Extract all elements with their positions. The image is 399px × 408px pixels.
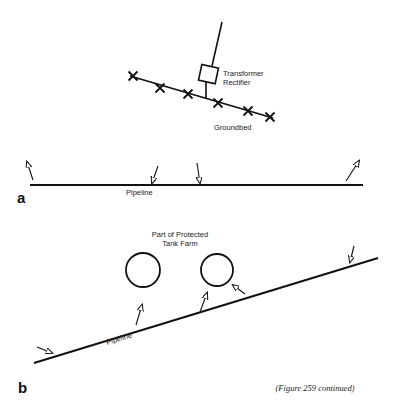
rectifier-cable	[212, 22, 222, 66]
current-arrows-b	[37, 246, 354, 353]
figure-caption: (Figure 259 continued)	[276, 383, 355, 393]
current-arrow-icon	[136, 305, 142, 325]
panel-a-label: a	[17, 189, 26, 206]
anode-x-icon	[129, 72, 138, 81]
groundbed-line	[130, 76, 273, 118]
tank-farm-label-2: Tank Farm	[162, 239, 197, 248]
current-arrows-a	[27, 161, 359, 183]
rectifier-label: Rectifier	[223, 78, 251, 87]
panel-b-label: b	[18, 379, 27, 396]
cathodic-protection-diagram: Transformer Rectifier Groundbed Pipeline…	[0, 0, 399, 408]
current-arrow-icon	[27, 162, 33, 180]
current-arrow-icon	[350, 246, 354, 262]
current-arrow-icon	[37, 347, 52, 353]
tanks	[126, 253, 233, 287]
current-arrow-icon	[197, 163, 200, 183]
pipeline-b	[34, 258, 378, 363]
tank-farm-label-1: Part of Protected	[152, 230, 208, 239]
pipeline-a-label: Pipeline	[126, 188, 153, 197]
current-arrow-icon	[346, 161, 359, 181]
panel-b: Part of Protected Tank Farm Pipeline b	[18, 230, 378, 396]
current-arrow-icon	[233, 285, 245, 294]
tank-circle	[201, 254, 233, 286]
groundbed-label: Groundbed	[214, 123, 252, 132]
transformer-label: Transformer	[223, 69, 264, 78]
current-arrow-icon	[152, 166, 158, 183]
transformer-rectifier-box	[199, 65, 219, 84]
panel-a: Transformer Rectifier Groundbed Pipeline…	[17, 22, 363, 206]
current-arrow-icon	[200, 293, 207, 312]
pipeline-b-label: Pipeline	[105, 331, 133, 347]
tank-circle	[126, 253, 160, 287]
